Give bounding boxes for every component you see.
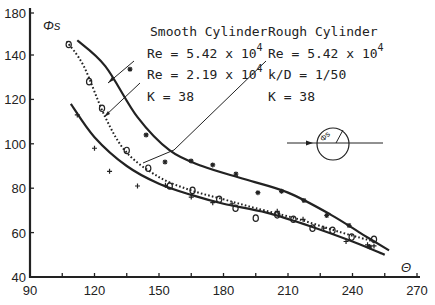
asterisk-marker xyxy=(301,198,306,203)
y-tick-label: 180 xyxy=(4,6,26,21)
x-tick-label: 120 xyxy=(84,283,106,298)
smooth-re2: Re = 2.19 x 104 xyxy=(147,63,263,82)
asterisk-marker xyxy=(189,158,194,163)
flow-arrow-icon xyxy=(306,141,313,146)
smooth-k: K = 38 xyxy=(147,89,194,104)
rough-kd: k/D = 1/50 xyxy=(268,67,346,82)
circle-marker xyxy=(124,147,129,153)
y-tick-label: 40 xyxy=(12,270,26,285)
y-axis-label: Φs xyxy=(43,18,61,33)
rough-re-exp: 4 xyxy=(378,42,384,53)
x-tick-label: 240 xyxy=(342,283,364,298)
rough-heading: Rough Cylinder xyxy=(268,24,378,39)
y-axis-label-text: Φs xyxy=(43,18,61,33)
y-tick-label: 80 xyxy=(12,181,26,196)
x-tick-label: 270 xyxy=(406,283,428,298)
smooth-annotation: Smooth Cylinder Re = 5.42 x 104 Re = 2.1… xyxy=(147,24,268,104)
plus-marker xyxy=(135,183,140,188)
cylinder-inset: Φs xyxy=(287,128,383,160)
x-tick-label: 150 xyxy=(148,283,170,298)
rough-re-base: Re = 5.42 x 10 xyxy=(268,46,378,61)
smooth-re2-base: Re = 2.19 x 10 xyxy=(147,67,257,82)
smooth-re1: Re = 5.42 x 104 xyxy=(147,42,263,61)
rough-annotation: Rough Cylinder Re = 5.42 x 104 k/D = 1/5… xyxy=(268,24,384,104)
y-tick-label: 60 xyxy=(12,226,26,241)
circle-marker xyxy=(253,215,258,221)
chart: 90120150180210240270 406080100120140180 … xyxy=(0,0,435,305)
circle-marker xyxy=(217,196,222,202)
asterisk-marker xyxy=(210,162,215,167)
smooth-re2-exp: 4 xyxy=(257,63,263,74)
asterisk-marker xyxy=(127,67,132,72)
x-axis-label: Θ xyxy=(401,260,411,275)
smooth-heading: Smooth Cylinder xyxy=(150,24,268,39)
circle-marker xyxy=(99,105,104,111)
smooth-re1-base: Re = 5.42 x 10 xyxy=(147,46,257,61)
asterisk-marker xyxy=(255,190,260,195)
asterisk-marker xyxy=(279,189,284,194)
circle-marker xyxy=(87,78,92,84)
plus-marker xyxy=(372,243,377,248)
leader-rough-2 xyxy=(143,150,174,163)
x-tick-label: 210 xyxy=(277,283,299,298)
asterisk-marker xyxy=(163,160,168,165)
y-tick-label: 120 xyxy=(4,92,26,107)
asterisk-marker xyxy=(324,213,329,218)
rough-k: K = 38 xyxy=(268,89,315,104)
x-tick-label: 180 xyxy=(213,283,235,298)
y-tick-label: 140 xyxy=(4,48,26,63)
x-tick-label: 90 xyxy=(23,283,37,298)
asterisk-marker xyxy=(144,132,149,137)
asterisk-marker xyxy=(347,223,352,228)
smooth-re1-exp: 4 xyxy=(257,42,263,53)
plus-marker xyxy=(107,169,112,174)
rough-re: Re = 5.42 x 104 xyxy=(268,42,384,61)
y-tick-label: 100 xyxy=(4,137,26,152)
plus-marker xyxy=(92,146,97,151)
asterisk-marker xyxy=(233,171,238,176)
angle-radius-line xyxy=(336,130,343,143)
inset-angle-label: Φs xyxy=(318,130,332,144)
